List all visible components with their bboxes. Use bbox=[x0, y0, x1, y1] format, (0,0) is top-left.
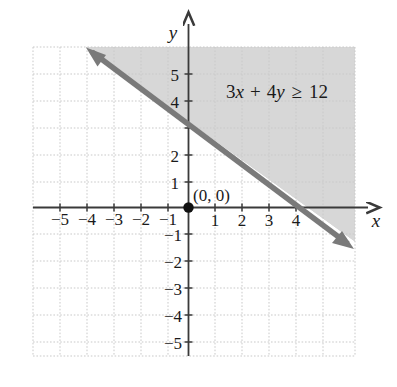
inequality-relation: ≥ bbox=[292, 81, 302, 102]
inequality-plus: + bbox=[250, 81, 261, 102]
inequality-coef-y: 4 bbox=[267, 81, 277, 102]
inequality-graph-figure: −5 −4 −3 −2 −1 1 2 3 4 5 4 2 1 −1 −2 −3 … bbox=[0, 0, 397, 387]
x-tick-label--3: −3 bbox=[105, 210, 123, 229]
y-tick-label--3: −3 bbox=[164, 280, 182, 299]
y-tick-label-2: 2 bbox=[171, 147, 180, 166]
y-tick-label--4: −4 bbox=[164, 307, 183, 326]
x-tick-label-3: 3 bbox=[265, 211, 274, 230]
inequality-coef-x: 3 bbox=[226, 81, 236, 102]
x-tick-label-4: 4 bbox=[292, 211, 301, 230]
origin-label: (0, 0) bbox=[193, 186, 230, 205]
y-tick-label-4: 4 bbox=[171, 93, 180, 112]
x-tick-label--5: −5 bbox=[51, 210, 69, 229]
x-tick-label--4: −4 bbox=[78, 210, 97, 229]
y-tick-label-1: 1 bbox=[171, 174, 180, 193]
x-tick-label--2: −2 bbox=[132, 210, 150, 229]
x-tick-label-2: 2 bbox=[238, 211, 247, 230]
y-tick-label--1: −1 bbox=[164, 226, 182, 245]
inequality-var-x: x bbox=[235, 81, 245, 102]
y-tick-label--5: −5 bbox=[164, 334, 182, 353]
x-axis-label: x bbox=[371, 210, 381, 231]
inequality-constant: 12 bbox=[309, 81, 328, 102]
coordinate-plane: −5 −4 −3 −2 −1 1 2 3 4 5 4 2 1 −1 −2 −3 … bbox=[0, 0, 397, 387]
inequality-annotation: 3x+4y≥12 bbox=[226, 81, 328, 102]
y-tick-label--2: −2 bbox=[164, 253, 182, 272]
y-axis-label: y bbox=[167, 22, 178, 43]
y-tick-label-5: 5 bbox=[171, 66, 180, 85]
inequality-var-y: y bbox=[274, 81, 285, 102]
x-tick-label-1: 1 bbox=[211, 211, 220, 230]
